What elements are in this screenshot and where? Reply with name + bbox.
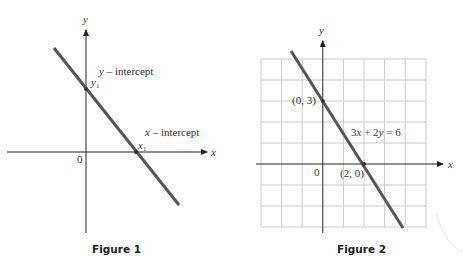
- fig2-origin-label: 0: [314, 166, 320, 178]
- fig1-y-intercept-label: y – intercept: [98, 65, 153, 77]
- fig1-caption: Figure 1: [92, 243, 141, 255]
- fig2-point-2-0-label: (2, 0): [340, 167, 364, 180]
- fig1-y1-label: y1: [90, 76, 100, 90]
- fig1-x-intercept-label: x – intercept: [144, 126, 199, 138]
- scan-artifact-arc: [436, 214, 463, 252]
- fig1-y-intercept-point: [84, 87, 88, 91]
- fig2-x-axis-label: x: [447, 158, 453, 170]
- figure-1: y x 0 y – intercept y1 x – intercept x1 …: [7, 13, 216, 255]
- fig2-point-0-3-label: (0, 3): [292, 94, 316, 107]
- fig1-x1-label: x1: [137, 139, 147, 153]
- fig2-grid: [261, 59, 426, 227]
- fig2-point-2-0: [362, 162, 366, 166]
- fig2-point-0-3: [321, 99, 325, 103]
- diagram-canvas: y x 0 y – intercept y1 x – intercept x1 …: [0, 0, 463, 260]
- fig1-y-axis-label: y: [82, 13, 88, 25]
- fig2-equation-label: 3x + 2y = 6: [351, 126, 401, 138]
- fig2-caption: Figure 2: [337, 243, 386, 255]
- fig1-origin-label: 0: [77, 153, 83, 165]
- fig2-y-axis-label: y: [318, 24, 324, 36]
- figure-2: y x 0 (0, 3) (2, 0) 3x + 2y = 6 Figure 2: [256, 24, 453, 255]
- fig1-x-axis-label: x: [210, 146, 216, 158]
- fig2-line: [291, 51, 403, 228]
